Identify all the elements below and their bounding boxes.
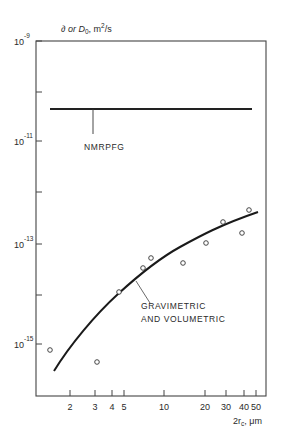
chart-canvas: 10-910-1110-1310-15 23451020304050 ∂ or …: [0, 0, 282, 446]
x-tick-label: 40: [239, 402, 249, 412]
gravimetric-label-line2: AND VOLUMETRIC: [141, 314, 225, 324]
x-tick-label: 5: [121, 402, 126, 412]
x-axis: 23451020304050: [67, 390, 261, 412]
data-points: [48, 208, 252, 365]
data-point: [247, 208, 252, 213]
gravimetric-label-line1: GRAVIMETRIC: [141, 301, 206, 311]
gravimetric-volumetric-curve: [54, 212, 258, 371]
x-tick-label: 50: [251, 402, 261, 412]
x-axis-title: 2rc, μm: [233, 416, 262, 427]
data-point: [95, 360, 100, 365]
x-tick-label: 2: [67, 402, 72, 412]
data-point: [221, 220, 226, 225]
data-point: [181, 261, 186, 266]
x-tick-label: 4: [109, 402, 114, 412]
y-tick-label: 10-11: [14, 132, 33, 147]
data-point: [240, 231, 245, 236]
data-point: [141, 266, 146, 271]
y-axis-title: ∂ or D0, m2/s: [61, 22, 112, 35]
data-point: [48, 348, 53, 353]
plot-frame: [36, 41, 266, 396]
x-tick-label: 3: [92, 402, 97, 412]
data-point: [204, 241, 209, 246]
y-tick-label: 10-13: [14, 235, 34, 250]
y-axis: 10-910-1110-1310-15: [14, 32, 42, 350]
x-tick-label: 20: [200, 402, 210, 412]
data-point: [149, 256, 154, 261]
x-tick-label: 30: [221, 402, 231, 412]
y-tick-label: 10-15: [14, 335, 34, 350]
x-tick-label: 10: [159, 402, 169, 412]
nmrpfg-label: NMRPFG: [84, 142, 124, 152]
data-point: [117, 290, 122, 295]
gravimetric-leader-line: [136, 281, 150, 303]
y-tick-label: 10-9: [14, 32, 30, 47]
